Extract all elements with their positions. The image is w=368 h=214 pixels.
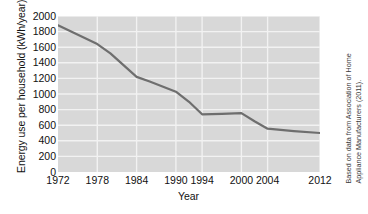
y-tick-label: 1200	[16, 73, 56, 84]
y-tick-label: 2000	[16, 11, 56, 22]
x-tick-label: 2012	[298, 174, 342, 186]
y-tick-label: 200	[16, 151, 56, 162]
x-tick-label: 1972	[36, 174, 80, 186]
y-tick-label: 1000	[16, 89, 56, 100]
y-tick-label: 1800	[16, 26, 56, 37]
chart-svg	[58, 16, 320, 172]
chart-figure: Energy use per household (kWh/year) 0200…	[0, 0, 368, 214]
source-note: Based on data from Association of Home A…	[344, 12, 363, 184]
x-tick-label: 1994	[180, 174, 224, 186]
plot-area	[58, 16, 320, 172]
y-tick-label: 600	[16, 120, 56, 131]
source-note-line-2: Appliance Manufacturers (2011).	[354, 12, 364, 184]
x-tick-label: 1984	[115, 174, 159, 186]
y-tick-label: 400	[16, 135, 56, 146]
source-note-line-1: Based on data from Association of Home	[344, 12, 354, 184]
y-tick-label: 800	[16, 104, 56, 115]
x-tick-label: 2004	[246, 174, 290, 186]
x-tick-label: 1978	[75, 174, 119, 186]
x-axis-label: Year	[56, 190, 321, 202]
y-tick-label: 1400	[16, 57, 56, 68]
y-tick-label: 1600	[16, 42, 56, 53]
